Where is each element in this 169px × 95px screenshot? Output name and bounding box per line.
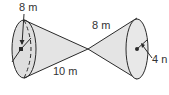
slant-label: 8 m [92,20,110,31]
double-cone-diagram [0,0,169,95]
right-radius-label: 4 n [152,54,167,65]
left-radius-label: 8 m [19,2,37,13]
left-cone-base [12,20,36,78]
length-label: 10 m [53,66,77,77]
